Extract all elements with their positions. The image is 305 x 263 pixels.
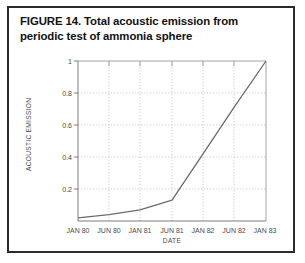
y-axis-ticks	[74, 61, 78, 189]
y-tick-label-06: 0.6	[62, 122, 72, 129]
x-tick-label-jan83: JAN 83	[254, 227, 277, 234]
chart-plot-area: ACOUSTIC EMISSION 1 0.8 0.6 0.4 0.2	[20, 49, 284, 235]
vertical-gridlines	[109, 61, 234, 221]
x-axis-title-container: DATE	[20, 233, 284, 249]
y-tick-label-08: 0.8	[62, 90, 72, 97]
x-tick-label-jun81: JUN 81	[160, 227, 183, 234]
figure-caption: FIGURE 14. Total acoustic emission from …	[20, 14, 282, 43]
top-axis-ticks	[109, 61, 234, 66]
acoustic-emission-line-chart: ACOUSTIC EMISSION 1 0.8 0.6 0.4 0.2	[20, 49, 284, 235]
y-axis-title: ACOUSTIC EMISSION	[25, 98, 32, 171]
y-tick-label-02: 0.2	[62, 186, 72, 193]
y-tick-label-04: 0.4	[62, 154, 72, 161]
x-tick-label-jan82: JAN 82	[192, 227, 215, 234]
x-tick-label-jan80: JAN 80	[67, 227, 90, 234]
x-tick-label-jun82: JUN 82	[222, 227, 245, 234]
x-tick-label-jan81: JAN 81	[129, 227, 152, 234]
x-axis-title: DATE	[163, 237, 182, 244]
x-tick-label-jun80: JUN 80	[97, 227, 120, 234]
y-tick-label-1: 1	[68, 58, 72, 65]
figure-container: FIGURE 14. Total acoustic emission from …	[7, 6, 295, 253]
